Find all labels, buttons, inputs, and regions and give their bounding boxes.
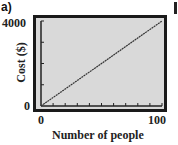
y-tick-max: 4000: [2, 16, 26, 31]
y-tick-min: 0: [24, 99, 30, 114]
x-axis-label: Number of people: [52, 128, 144, 143]
y-axis-label: Cost ($): [14, 38, 29, 88]
cost-line: [41, 21, 162, 106]
x-tick-max: 100: [148, 113, 166, 128]
x-tick-min: 0: [38, 113, 44, 128]
